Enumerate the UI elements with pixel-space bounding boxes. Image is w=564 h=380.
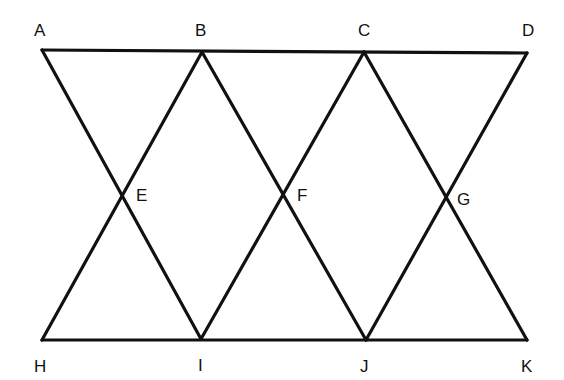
- point-label-c: C: [358, 21, 370, 40]
- segments-group: [42, 50, 527, 340]
- point-label-k: K: [521, 357, 533, 376]
- point-label-f: F: [297, 186, 307, 205]
- point-label-e: E: [136, 186, 147, 205]
- point-label-b: B: [195, 21, 206, 40]
- segment-ad: [42, 50, 527, 53]
- geometry-diagram: ABCDEFGHIJK: [0, 0, 564, 380]
- point-label-a: A: [34, 21, 46, 40]
- point-label-g: G: [457, 190, 470, 209]
- point-label-i: I: [198, 356, 203, 375]
- point-label-d: D: [522, 21, 534, 40]
- point-label-j: J: [360, 357, 369, 376]
- point-label-h: H: [34, 357, 46, 376]
